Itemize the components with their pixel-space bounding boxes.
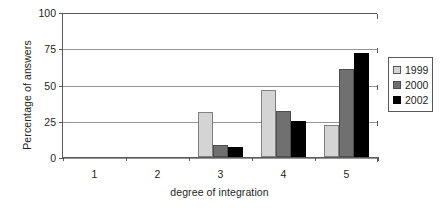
bar-1999-cat-5 <box>324 125 339 157</box>
x-tick-label-4: 4 <box>281 168 287 180</box>
legend-label: 2002 <box>405 94 428 106</box>
plot-area: 0255075100 12345 <box>62 13 377 158</box>
y-tick-25 <box>59 122 63 123</box>
x-tick-label-2: 2 <box>155 168 161 180</box>
legend-label: 2000 <box>405 79 428 91</box>
y-axis-title: Percentage of answers <box>18 15 36 175</box>
x-tick <box>252 157 253 161</box>
x-tick <box>315 157 316 161</box>
y-tick-label: 0 <box>50 152 56 164</box>
y-tick-label: 75 <box>44 43 56 55</box>
y-tick-50 <box>59 86 63 87</box>
legend-swatch-icon <box>393 96 401 104</box>
x-tick-label-5: 5 <box>344 168 350 180</box>
y-tick-100 <box>59 13 63 14</box>
legend-swatch-icon <box>393 81 401 89</box>
legend-swatch-icon <box>393 66 401 74</box>
y-tick-label: 25 <box>44 116 56 128</box>
gridline-end-tick <box>377 121 378 126</box>
legend-item-2000: 2000 <box>393 77 429 92</box>
legend: 199920002002 <box>388 57 433 112</box>
gridline-75 <box>63 49 377 50</box>
bar-2000-cat-4 <box>276 111 291 157</box>
bar-2000-cat-3 <box>213 145 228 157</box>
bar-chart-figure: Percentage of answers 0255075100 12345 d… <box>0 0 443 211</box>
y-tick-label: 50 <box>44 80 56 92</box>
gridline-0 <box>63 158 377 159</box>
bar-2002-cat-4 <box>291 121 306 157</box>
y-tick-75 <box>59 49 63 50</box>
bar-1999-cat-4 <box>261 90 276 157</box>
gridline-100 <box>63 13 377 14</box>
gridline-end-tick <box>377 14 378 19</box>
x-tick <box>378 157 379 161</box>
gridline-50 <box>63 86 377 87</box>
bar-2002-cat-3 <box>228 147 243 157</box>
bar-2000-cat-5 <box>339 69 354 157</box>
y-tick-label: 100 <box>38 7 56 19</box>
x-axis-title: degree of integration <box>62 186 377 198</box>
bar-1999-cat-3 <box>198 112 213 157</box>
x-tick <box>126 157 127 161</box>
x-tick-label-3: 3 <box>218 168 224 180</box>
legend-label: 1999 <box>405 64 428 76</box>
gridline-end-tick <box>377 85 378 90</box>
bar-2002-cat-5 <box>354 53 369 157</box>
legend-item-2002: 2002 <box>393 92 429 107</box>
x-tick-label-1: 1 <box>92 168 98 180</box>
gridline-end-tick <box>377 48 378 53</box>
x-tick <box>189 157 190 161</box>
x-tick <box>63 157 64 161</box>
gridline-25 <box>63 122 377 123</box>
legend-item-1999: 1999 <box>393 62 429 77</box>
